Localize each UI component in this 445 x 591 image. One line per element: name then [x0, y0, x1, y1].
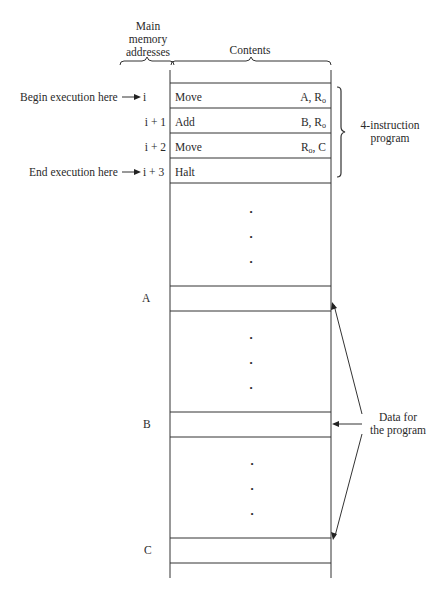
end-execution-label: End execution here: [29, 166, 118, 179]
dot: •: [241, 351, 261, 376]
ellipsis-dots: • • •: [242, 452, 262, 527]
operand-text: B, R: [301, 116, 322, 128]
dot: •: [242, 502, 262, 527]
address-i-plus-3: i + 3: [143, 166, 164, 179]
arrow-to-A: [334, 305, 362, 414]
arrowhead-A: [331, 302, 337, 310]
dot: •: [242, 452, 262, 477]
address-B: B: [143, 418, 151, 431]
dot: •: [241, 376, 261, 401]
addresses-header: Main memory addresses: [113, 20, 183, 59]
program-brace: [337, 87, 345, 177]
address-C: C: [144, 544, 152, 557]
dot: •: [241, 225, 261, 250]
addresses-header-line-3: addresses: [113, 46, 183, 59]
begin-execution-label: Begin execution here: [20, 91, 118, 104]
operand-subscript: o: [322, 96, 326, 105]
program-brace-label: 4-instruction program: [350, 119, 430, 145]
data-label-line-1: Data for: [360, 411, 436, 424]
operand-subscript: o: [322, 121, 326, 130]
arrowhead-B: [332, 421, 339, 427]
ellipsis-dots: • • •: [241, 326, 261, 401]
instruction-operands: A, Ro: [260, 91, 326, 104]
dot: •: [241, 200, 261, 225]
operand-text: R: [301, 141, 309, 153]
data-label: Data for the program: [360, 411, 436, 437]
dot: •: [242, 477, 262, 502]
address-A: A: [142, 292, 150, 305]
instruction-opcode: Move: [175, 141, 202, 154]
instruction-operands: B, Ro: [260, 116, 326, 129]
dot: •: [241, 250, 261, 275]
address-i: i: [143, 91, 146, 104]
instruction-opcode: Halt: [175, 166, 195, 179]
address-i-plus-2: i + 2: [130, 141, 166, 154]
contents-header: Contents: [210, 44, 290, 57]
operand-text: A, R: [300, 91, 322, 103]
instruction-operands: Ro, C: [260, 141, 326, 154]
program-brace-label-line-2: program: [350, 132, 430, 145]
operand-tail: , C: [313, 141, 326, 153]
begin-arrowhead: [134, 94, 141, 100]
instruction-opcode: Move: [175, 91, 202, 104]
memory-diagram-lines: [0, 0, 445, 591]
address-i-plus-1: i + 1: [130, 116, 166, 129]
addresses-header-line-1: Main: [113, 20, 183, 33]
arrow-to-C: [335, 434, 362, 536]
dot: •: [241, 326, 261, 351]
ellipsis-dots: • • •: [241, 200, 261, 275]
end-arrowhead: [134, 169, 141, 175]
program-brace-label-line-1: 4-instruction: [350, 119, 430, 132]
contents-brace: [171, 57, 331, 65]
instruction-opcode: Add: [175, 116, 195, 129]
data-label-line-2: the program: [360, 424, 436, 437]
addresses-header-line-2: memory: [113, 33, 183, 46]
